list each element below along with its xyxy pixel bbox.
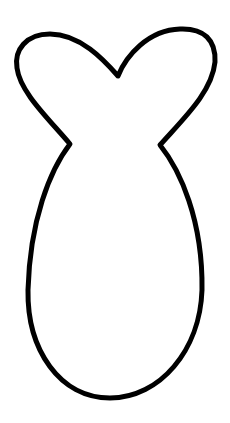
- outline-drawing-canvas: [0, 0, 230, 423]
- shape-outline-path: [17, 29, 216, 398]
- fish-shape-outline: [0, 0, 230, 423]
